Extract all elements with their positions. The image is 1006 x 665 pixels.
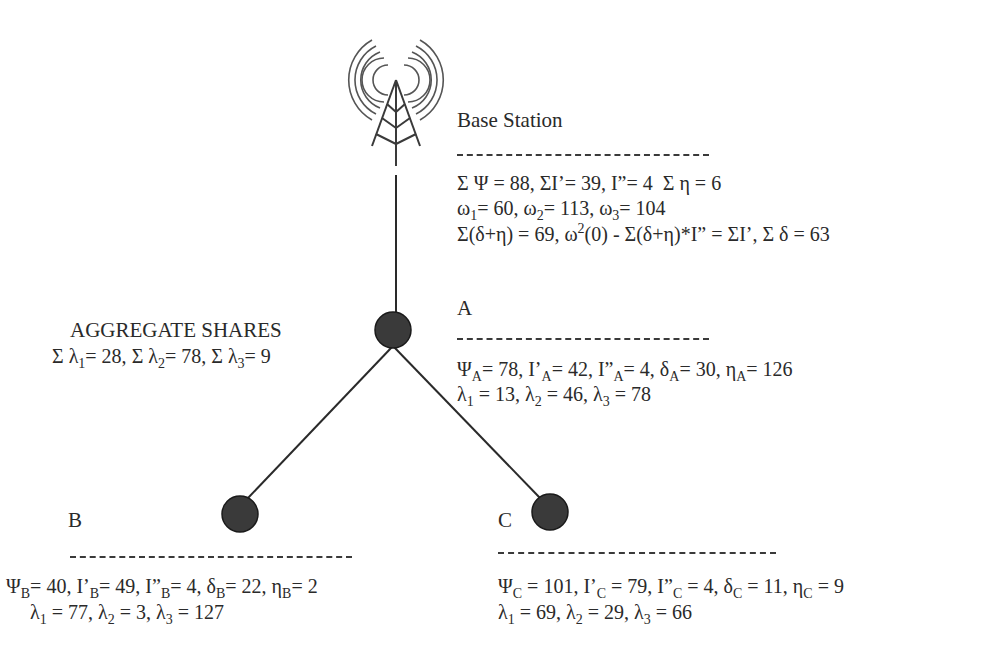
math-token: = 4,	[170, 575, 201, 597]
math-token: (0) - Σ(δ+η)*I” = ΣI’, Σ δ = 63	[585, 223, 830, 245]
node-c-lambdas: λ1 = 69, λ2 = 29, λ3 = 66	[498, 600, 692, 624]
math-token: B	[282, 586, 291, 601]
math-token: = 69,	[520, 601, 561, 623]
math-token: = 13,	[479, 383, 520, 405]
node-c[interactable]	[532, 494, 568, 530]
math-token: = 22,	[225, 575, 266, 597]
math-token: = 4,	[624, 358, 655, 380]
math-token: A	[669, 369, 679, 384]
math-token: I”	[657, 575, 673, 597]
math-token: = 40,	[30, 575, 71, 597]
math-token: = 4,	[687, 575, 718, 597]
node-b-params: ΨB= 40, I’B= 49, I”B= 4, δB= 22, ηB= 2	[6, 574, 318, 598]
math-token: B	[161, 586, 170, 601]
node-c-label: C	[498, 508, 512, 532]
math-token: = 11,	[747, 575, 788, 597]
math-token: C	[513, 586, 522, 601]
math-token: = 30,	[679, 358, 720, 380]
math-token: Σ λ	[132, 345, 158, 367]
node-a-label: A	[457, 296, 472, 320]
math-token: C	[803, 586, 812, 601]
math-token: = 3,	[120, 601, 151, 623]
math-token: 2	[535, 394, 542, 409]
math-token: = 101,	[527, 575, 578, 597]
edge-a-b	[248, 347, 392, 498]
node-b[interactable]	[222, 496, 258, 532]
math-token: λ	[525, 383, 535, 405]
math-token: 3	[603, 394, 610, 409]
math-token: C	[597, 586, 606, 601]
node-a-params: ΨA= 78, I’A= 42, I”A= 4, δA= 30, ηA= 126	[457, 357, 793, 381]
aggregate-lambdas: Σ λ1= 28, Σ λ2= 78, Σ λ3= 9	[52, 344, 271, 368]
math-token: δ	[660, 358, 669, 380]
math-token: η	[272, 575, 282, 597]
math-token: ω	[457, 197, 470, 219]
math-token: λ	[593, 383, 603, 405]
math-token: λ	[566, 601, 576, 623]
math-token: η	[726, 358, 736, 380]
math-token: Ψ	[498, 575, 513, 597]
math-token: = 78,	[482, 358, 523, 380]
math-token: 2	[108, 612, 115, 627]
base-station-omegas: ω1= 60, ω2= 113, ω3= 104	[457, 196, 666, 220]
math-token: 1	[40, 612, 47, 627]
math-token: 2	[578, 221, 585, 236]
math-token: = 2	[291, 575, 317, 597]
math-token: ω	[599, 197, 612, 219]
math-token: Ψ	[457, 358, 472, 380]
math-token: = 60,	[477, 197, 518, 219]
math-token: Ψ	[6, 575, 21, 597]
math-token: 1	[467, 394, 474, 409]
math-token: δ	[207, 575, 216, 597]
node-a-lambdas: λ1 = 13, λ2 = 46, λ3 = 78	[457, 382, 651, 406]
math-token: = 46,	[547, 383, 588, 405]
base-station-sums: Σ Ψ = 88, ΣI’= 39, I”= 4 Σ η = 6	[457, 171, 721, 195]
math-token: λ	[30, 601, 40, 623]
math-token: 2	[576, 612, 583, 627]
math-token: 3	[238, 356, 245, 371]
math-token: Σ Ψ = 88,	[457, 172, 535, 194]
math-token: ΣI’= 39,	[540, 172, 606, 194]
math-token: ω	[523, 197, 536, 219]
math-token: B	[216, 586, 225, 601]
math-token: 3	[644, 612, 651, 627]
math-token: = 104	[619, 197, 665, 219]
math-token: η	[793, 575, 803, 597]
math-token: 1	[508, 612, 515, 627]
math-token: λ	[156, 601, 166, 623]
node-a[interactable]	[375, 312, 411, 348]
math-token: C	[673, 586, 682, 601]
node-b-lambdas: λ1 = 77, λ2 = 3, λ3 = 127	[30, 600, 224, 624]
math-token: λ	[457, 383, 467, 405]
math-token: = 126	[746, 358, 792, 380]
math-token: = 77,	[52, 601, 93, 623]
math-token: = 78,	[165, 345, 206, 367]
math-token: = 9	[818, 575, 844, 597]
math-token: Σ(δ+η) = 69, ω	[457, 223, 578, 245]
math-token: = 78	[615, 383, 651, 405]
aggregate-title: AGGREGATE SHARES	[70, 318, 282, 342]
math-token: = 49,	[99, 575, 140, 597]
math-token: = 66	[656, 601, 692, 623]
math-token: = 28,	[85, 345, 126, 367]
math-token: = 9	[245, 345, 271, 367]
math-token: I’	[583, 575, 596, 597]
divider	[70, 556, 352, 558]
math-token: I’	[76, 575, 89, 597]
math-token: Σ η = 6	[663, 172, 721, 194]
base-station-title: Base Station	[457, 108, 563, 132]
math-token: I’	[528, 358, 541, 380]
math-token: C	[733, 586, 742, 601]
divider	[498, 552, 776, 554]
math-token: B	[21, 586, 30, 601]
math-token: λ	[634, 601, 644, 623]
math-token: B	[90, 586, 99, 601]
math-token: λ	[98, 601, 108, 623]
math-token: 3	[166, 612, 173, 627]
radio-tower-icon	[349, 40, 444, 166]
math-token: 2	[537, 208, 544, 223]
math-token: δ	[724, 575, 733, 597]
math-token: I”	[598, 358, 614, 380]
node-b-label: B	[68, 508, 82, 532]
math-token: = 127	[178, 601, 224, 623]
